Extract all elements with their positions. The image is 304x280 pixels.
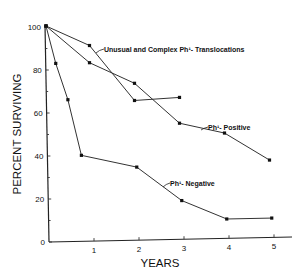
x-tick-label: 2: [137, 245, 142, 254]
leader-line-negative: [163, 183, 170, 187]
y-tick-label: 40: [34, 152, 43, 161]
x-axis-line: [49, 237, 292, 242]
data-point-marker: [88, 44, 91, 47]
leader-line-unusual: [96, 49, 104, 53]
data-point-marker: [44, 24, 47, 27]
y-axis-line: [45, 25, 49, 242]
data-point-marker: [268, 158, 271, 161]
y-tick-label: 20: [35, 195, 44, 204]
annotation-label-positive: Ph¹- Positive: [208, 124, 251, 131]
x-tick-label: 4: [227, 243, 232, 252]
y-axis: [45, 25, 49, 242]
series-group: [44, 24, 273, 220]
annotation-unusual: Unusual and Complex Ph¹- Translocations: [96, 46, 245, 54]
y-axis-title: PERCENT SURVIVING: [11, 73, 23, 194]
annotation-label-negative: Ph¹- Negative: [170, 180, 215, 188]
y-tick-label: 100: [28, 23, 42, 32]
data-point-marker: [225, 217, 228, 220]
data-point-marker: [80, 154, 83, 157]
x-axis: [49, 237, 292, 242]
y-tick-label: 0: [41, 238, 46, 247]
data-point-marker: [66, 98, 69, 101]
data-point-marker: [178, 122, 181, 125]
x-axis-title: YEARS: [141, 257, 180, 269]
data-point-marker: [178, 96, 181, 99]
series-line: [46, 26, 180, 100]
survival-chart: 02040608010012345 PERCENT SURVIVING YEAR…: [0, 0, 304, 280]
axis-ticks: [45, 27, 274, 242]
y-tick-label: 60: [34, 109, 43, 118]
data-point-marker: [270, 216, 273, 219]
tick-labels: 02040608010012345: [28, 23, 277, 255]
annotation-label-unusual: Unusual and Complex Ph¹- Translocations: [104, 46, 245, 54]
data-point-marker: [133, 82, 136, 85]
x-tick-label: 5: [272, 242, 277, 251]
data-point-marker: [180, 199, 183, 202]
x-tick-label: 3: [182, 244, 187, 253]
x-tick-label: 1: [92, 246, 97, 255]
data-point-marker: [54, 62, 57, 65]
data-point-marker: [135, 165, 138, 168]
data-point-marker: [223, 131, 226, 134]
annotation-positive: Ph¹- Positive: [201, 124, 251, 131]
y-tick-label: 80: [33, 66, 42, 75]
data-point-marker: [88, 61, 91, 64]
annotation-negative: Ph¹- Negative: [163, 180, 215, 188]
data-point-marker: [133, 99, 136, 102]
